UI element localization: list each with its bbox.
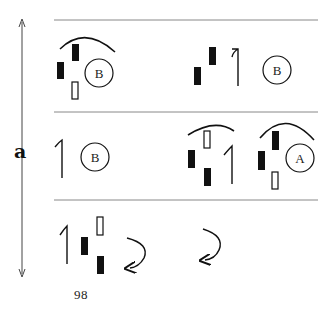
hollow-bar: [272, 172, 278, 189]
row0-group-left: [57, 38, 115, 99]
filled-bar: [194, 67, 201, 85]
arc-symbol: [60, 38, 115, 52]
diagram-canvas: B B B A: [0, 0, 331, 318]
row2-group-left: [60, 217, 145, 274]
circle-label: B: [273, 63, 282, 78]
curved-arrow-icon: [203, 229, 220, 260]
arc-symbol: [188, 125, 234, 135]
axis-label: a: [14, 140, 26, 162]
filled-bar: [81, 237, 88, 255]
page-number: 98: [74, 287, 88, 303]
hook-line-symbol: [224, 146, 232, 184]
row1-group-middle: [188, 125, 234, 186]
row2-group-right: [203, 229, 220, 260]
circle-label: B: [95, 66, 104, 81]
hook-line-symbol: [232, 49, 238, 86]
curved-arrow-icon: [127, 238, 145, 268]
filled-bar: [97, 256, 104, 274]
row1-group-left: [55, 140, 109, 178]
hook-line-symbol: [55, 140, 62, 178]
filled-bar: [272, 131, 279, 150]
filled-bar: [204, 168, 211, 186]
hollow-bar: [72, 82, 78, 99]
filled-bar: [209, 47, 216, 65]
filled-bar: [57, 62, 64, 79]
circle-label: B: [91, 150, 100, 165]
hollow-bar: [204, 131, 210, 148]
row1-group-right: [258, 123, 314, 189]
circle-label: A: [295, 151, 305, 166]
hook-line-symbol: [60, 226, 67, 264]
hollow-bar: [97, 217, 103, 235]
filled-bar: [188, 150, 195, 168]
arc-symbol: [260, 123, 314, 140]
filled-bar: [258, 151, 265, 170]
filled-bar: [72, 44, 79, 61]
